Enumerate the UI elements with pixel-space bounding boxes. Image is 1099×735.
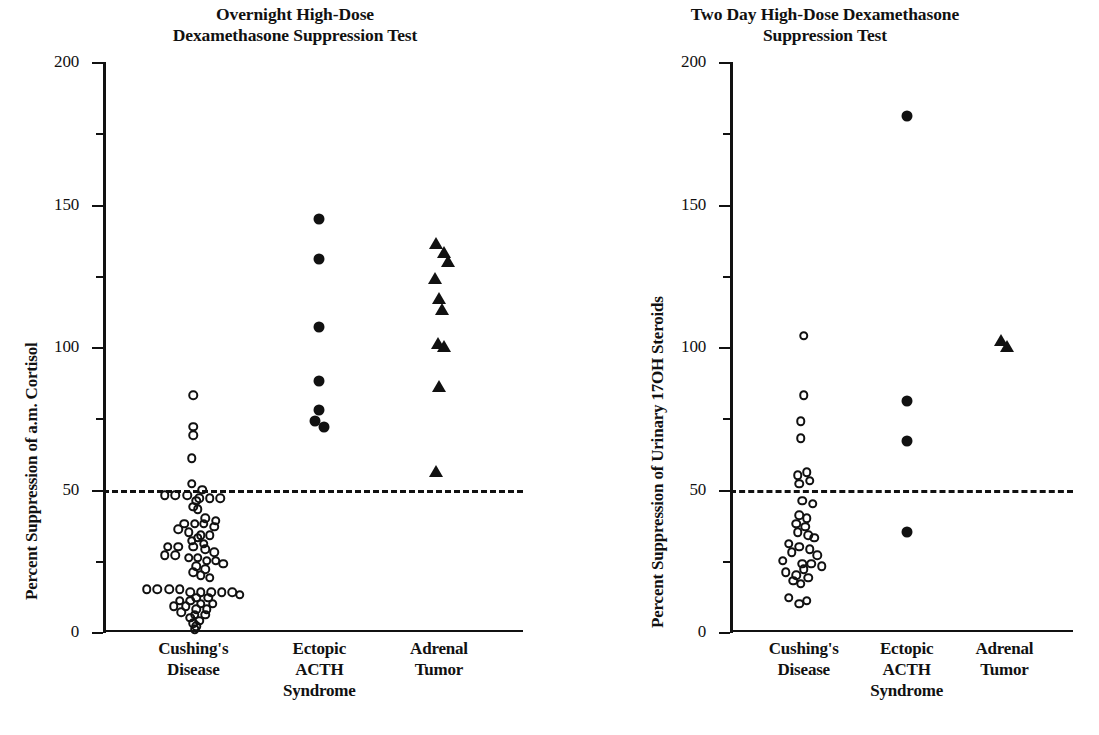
y-tick-label-left-50: 50: [62, 479, 79, 499]
data-point: [1000, 340, 1014, 352]
data-point: [796, 579, 806, 589]
data-point: [183, 490, 193, 500]
panel-right-y-axis-label: Percent Suppression of Urinary 17OH Ster…: [648, 296, 668, 628]
data-point: [314, 404, 325, 415]
x-category-label-left-2: AdrenalTumor: [364, 638, 514, 680]
data-point: [435, 303, 449, 315]
data-point: [142, 585, 152, 595]
data-point: [784, 593, 794, 603]
data-point: [428, 272, 442, 284]
y-tick-minor-right-75: [723, 418, 730, 420]
panel-right-title-line-1: Two Day High-Dose Dexamethasone: [590, 4, 1060, 25]
data-point: [175, 585, 185, 595]
panel-right-y-axis: [730, 62, 733, 633]
data-point: [160, 550, 170, 560]
y-tick-major-left-0: 0: [92, 632, 103, 634]
data-point: [797, 496, 807, 506]
data-point: [796, 416, 806, 426]
data-point: [153, 585, 163, 595]
data-point: [219, 559, 229, 569]
y-tick-label-right-150: 150: [681, 194, 706, 214]
data-point: [189, 542, 199, 552]
data-point: [187, 453, 197, 463]
data-point: [432, 380, 446, 392]
y-tick-minor-left-75: [96, 418, 103, 420]
chart-panel-left: Overnight High-Dose Dexamethasone Suppre…: [0, 0, 549, 735]
y-tick-label-left-0: 0: [71, 622, 79, 642]
data-point: [174, 525, 184, 535]
y-tick-minor-left-25: [96, 561, 103, 563]
y-tick-major-right-100: 100: [719, 347, 730, 349]
y-tick-minor-right-125: [723, 276, 730, 278]
x-category-line: Adrenal: [929, 638, 1079, 659]
panel-right-title: Two Day High-Dose Dexamethasone Suppress…: [590, 4, 1060, 46]
data-point: [171, 550, 181, 560]
data-point: [189, 391, 199, 401]
panel-left-title: Overnight High-Dose Dexamethasone Suppre…: [60, 4, 530, 46]
y-tick-label-left-200: 200: [54, 52, 79, 72]
data-point: [165, 585, 175, 595]
data-point: [187, 479, 197, 489]
y-tick-minor-right-175: [723, 133, 730, 135]
panel-left-y-axis: [103, 62, 106, 633]
panel-left-plot-area: 050100150200Cushing'sDiseaseEctopicACTHS…: [103, 62, 523, 632]
data-point: [205, 530, 215, 540]
data-point: [216, 493, 226, 503]
data-point: [205, 573, 215, 583]
data-point: [808, 499, 818, 509]
data-point: [318, 421, 329, 432]
data-point: [314, 213, 325, 224]
figure-root: Overnight High-Dose Dexamethasone Suppre…: [0, 0, 1099, 735]
y-tick-minor-right-25: [723, 561, 730, 563]
panel-left-y-axis-label: Percent Suppression of a.m. Cortisol: [22, 342, 42, 600]
data-point: [193, 505, 203, 515]
y-tick-label-left-150: 150: [54, 194, 79, 214]
panel-right-title-line-2: Suppression Test: [590, 25, 1060, 46]
data-point: [199, 519, 209, 529]
y-tick-minor-left-175: [96, 133, 103, 135]
panel-left-title-line-1: Overnight High-Dose: [60, 4, 530, 25]
data-point: [314, 376, 325, 387]
data-point: [778, 556, 788, 566]
data-point: [235, 590, 245, 600]
panel-left-x-axis: [103, 630, 523, 633]
data-point: [781, 567, 791, 577]
data-point: [796, 433, 806, 443]
x-category-line: Adrenal: [364, 638, 514, 659]
data-point: [160, 490, 170, 500]
y-tick-major-right-200: 200: [719, 62, 730, 64]
data-point: [799, 331, 809, 341]
data-point: [901, 436, 912, 447]
data-point: [314, 322, 325, 333]
y-tick-major-left-100: 100: [92, 347, 103, 349]
y-tick-label-right-100: 100: [681, 337, 706, 357]
data-point: [432, 292, 446, 304]
x-category-line: Tumor: [929, 659, 1079, 680]
y-tick-minor-left-125: [96, 276, 103, 278]
y-tick-major-left-150: 150: [92, 205, 103, 207]
y-tick-major-right-0: 0: [719, 632, 730, 634]
data-point: [171, 490, 181, 500]
data-point: [794, 479, 804, 489]
data-point: [817, 562, 827, 572]
data-point: [217, 587, 227, 597]
x-category-line: Tumor: [364, 659, 514, 680]
y-tick-major-left-200: 200: [92, 62, 103, 64]
panel-right-plot-area: 050100150200Cushing'sDiseaseEctopicACTHS…: [730, 62, 1073, 632]
x-category-line: Syndrome: [244, 680, 394, 701]
x-category-line: Syndrome: [832, 680, 982, 701]
data-point: [205, 493, 215, 503]
data-point: [190, 624, 200, 634]
chart-panel-right: Two Day High-Dose Dexamethasone Suppress…: [550, 0, 1099, 735]
data-point: [799, 391, 809, 401]
y-tick-label-right-0: 0: [698, 622, 706, 642]
panel-left-title-line-2: Dexamethasone Suppression Test: [60, 25, 530, 46]
data-point: [429, 465, 443, 477]
data-point: [812, 550, 822, 560]
data-point: [314, 253, 325, 264]
data-point: [437, 340, 451, 352]
x-category-label-right-2: AdrenalTumor: [929, 638, 1079, 680]
data-point: [189, 431, 199, 441]
y-tick-label-right-50: 50: [689, 479, 706, 499]
y-tick-label-right-200: 200: [681, 52, 706, 72]
